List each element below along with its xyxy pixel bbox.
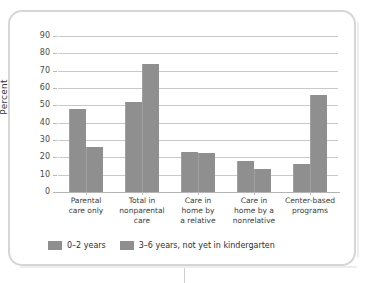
bar — [293, 164, 310, 192]
gridline — [58, 105, 338, 106]
bar — [181, 152, 198, 192]
frame-shadow-bottom — [20, 266, 357, 268]
x-axis-category-label: Total in nonparental care — [112, 196, 172, 226]
bar — [69, 109, 86, 192]
bar — [142, 64, 159, 192]
y-axis-tick-label: 40 — [24, 119, 50, 127]
gridline — [58, 88, 338, 89]
legend-entry: 3–6 years, not yet in kindergarten — [120, 241, 275, 250]
gridline — [58, 123, 338, 124]
gridline — [58, 71, 338, 72]
y-axis-tick-label: 20 — [24, 153, 50, 161]
y-axis-tick-label: 60 — [24, 84, 50, 92]
y-axis-title: Percent — [0, 79, 9, 114]
bar — [86, 147, 103, 192]
y-axis-tick-mark — [53, 88, 57, 89]
y-axis-tick-mark — [53, 36, 57, 37]
y-axis-tick-mark — [53, 140, 57, 141]
y-axis-tick-mark — [53, 71, 57, 72]
y-axis-tick-label: 30 — [24, 136, 50, 144]
y-axis-tick-mark — [53, 105, 57, 106]
y-axis-tick-label: 70 — [24, 67, 50, 75]
x-axis-tick-mark — [86, 192, 87, 195]
y-axis-tick-label: 0 — [24, 188, 50, 196]
y-axis-tick-mark — [53, 157, 57, 158]
chart-legend: 0–2 years3–6 years, not yet in kindergar… — [48, 241, 275, 250]
y-axis-tick-label: 90 — [24, 32, 50, 40]
leader-line — [184, 268, 185, 283]
plot-area — [58, 36, 338, 192]
x-axis-tick-mark — [310, 192, 311, 195]
bar — [125, 102, 142, 192]
x-axis-category-label: Parental care only — [56, 196, 116, 216]
y-axis-tick-mark — [53, 175, 57, 176]
legend-entry: 0–2 years — [48, 241, 106, 250]
legend-swatch-icon — [48, 241, 62, 250]
gridline — [58, 36, 338, 37]
frame-shadow-right — [357, 22, 359, 258]
y-axis-tick-mark — [53, 123, 57, 124]
bar — [254, 169, 271, 192]
legend-swatch-icon — [120, 241, 134, 250]
legend-label: 0–2 years — [67, 241, 106, 250]
x-axis-tick-mark — [142, 192, 143, 195]
y-axis-tick-label: 50 — [24, 101, 50, 109]
x-axis-tick-mark — [254, 192, 255, 195]
y-axis-tick-label: 80 — [24, 49, 50, 57]
legend-label: 3–6 years, not yet in kindergarten — [139, 241, 275, 250]
x-axis-category-label: Care in home by a nonrelative — [224, 196, 284, 226]
gridline — [58, 53, 338, 54]
y-axis-tick-labels: 0102030405060708090 — [22, 0, 50, 283]
y-axis-tick-mark — [53, 53, 57, 54]
x-axis-tick-mark — [198, 192, 199, 195]
bar — [237, 161, 254, 192]
bar — [198, 153, 215, 192]
gridline — [58, 140, 338, 141]
bar — [310, 95, 327, 192]
y-axis-tick-label: 10 — [24, 171, 50, 179]
x-axis-category-label: Center-based programs — [280, 196, 340, 216]
x-axis-category-label: Care in home by a relative — [168, 196, 228, 226]
